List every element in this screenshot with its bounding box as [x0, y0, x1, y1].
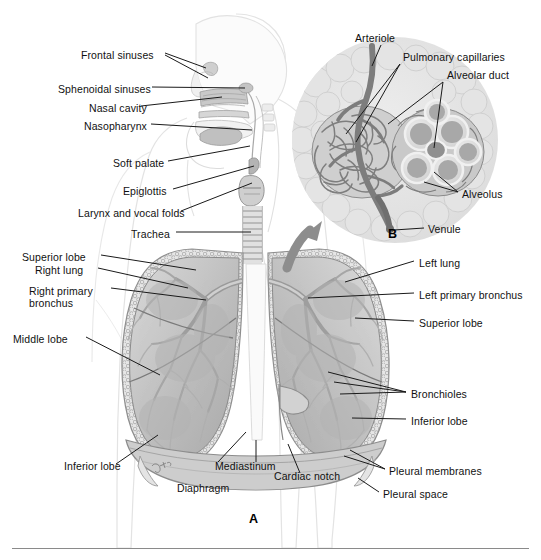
right-lung-shape [122, 249, 243, 467]
label-left-lung: Left lung [419, 258, 460, 270]
label-pleural-space: Pleural space [383, 489, 448, 501]
alveolar-duct-lumen [426, 141, 446, 159]
label-right-primary-bronchus: Right primary bronchus [29, 286, 103, 309]
label-superior-lobe-left: Superior lobe [419, 318, 483, 330]
panel-letter-a: A [249, 512, 258, 526]
inset-b-alveolar-detail [289, 37, 498, 243]
label-pleural-membranes: Pleural membranes [389, 466, 482, 478]
label-nasopharynx: Nasopharynx [84, 121, 147, 133]
label-superior-lobe-right: Superior lobe [22, 252, 86, 264]
label-mediastinum: Mediastinum [215, 461, 276, 473]
label-left-primary-bronchus: Left primary bronchus [419, 290, 523, 302]
label-arteriole: Arteriole [355, 33, 395, 45]
respiratory-system-figure: Frontal sinuses Sphenoidal sinuses Nasal… [0, 0, 541, 560]
label-cardiac-notch: Cardiac notch [274, 471, 340, 483]
label-epiglottis: Epiglottis [123, 186, 167, 198]
panel-letter-b: B [388, 227, 397, 241]
label-alveolus: Alveolus [462, 189, 503, 201]
label-right-lung: Right lung [35, 265, 83, 277]
label-trachea: Trachea [131, 229, 170, 241]
label-pulmonary-capillaries: Pulmonary capillaries [403, 52, 505, 64]
label-bronchioles: Bronchioles [411, 389, 467, 401]
head-sagittal-section [187, 16, 287, 232]
label-inferior-lobe-right: Inferior lobe [64, 461, 121, 473]
label-soft-palate: Soft palate [113, 158, 164, 170]
left-lung-shape [268, 249, 389, 467]
label-sphenoidal-sinuses: Sphenoidal sinuses [58, 84, 151, 96]
label-alveolar-duct: Alveolar duct [447, 70, 509, 82]
label-nasal-cavity: Nasal cavity [89, 103, 147, 115]
label-diaphragm: Diaphragm [177, 483, 229, 495]
bottom-rule [12, 548, 529, 549]
larynx-shape [239, 176, 264, 207]
label-inferior-lobe-left: Inferior lobe [411, 416, 468, 428]
trachea-shape [243, 206, 262, 264]
label-larynx-and-vocal-folds: Larynx and vocal folds [78, 208, 185, 220]
mediastinum-shape [246, 264, 266, 440]
label-frontal-sinuses: Frontal sinuses [81, 50, 154, 62]
label-middle-lobe: Middle lobe [13, 334, 68, 346]
label-venule: Venule [428, 224, 461, 236]
